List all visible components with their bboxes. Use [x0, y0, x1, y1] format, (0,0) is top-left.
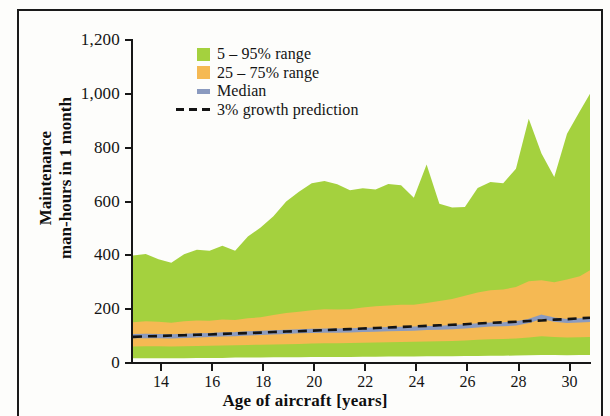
legend-label: Median: [217, 82, 266, 100]
x-tick-label-18: 18: [243, 373, 283, 391]
x-tick-label-22: 22: [345, 373, 385, 391]
y-tick-1000: [125, 93, 132, 95]
legend-key-median: [176, 89, 210, 94]
legend-swatch-icon: [197, 66, 210, 79]
y-tick-800: [125, 147, 132, 149]
x-tick-label-28: 28: [499, 373, 539, 391]
legend-swatch-icon: [197, 48, 210, 61]
legend-key-prediction: [176, 108, 210, 111]
y-tick-400: [125, 254, 132, 256]
x-tick-20: [313, 364, 315, 371]
x-tick-16: [211, 364, 213, 371]
x-tick-30: [569, 364, 571, 371]
y-axis-title-line-2: man-hours in 1 month: [56, 48, 76, 308]
x-tick-14: [160, 364, 162, 371]
legend-item-median: Median: [176, 82, 359, 101]
legend-key-range-25-75: [176, 66, 210, 79]
x-axis-line: [131, 362, 591, 364]
x-tick-24: [415, 364, 417, 371]
y-tick-1200: [125, 39, 132, 41]
x-tick-22: [364, 364, 366, 371]
x-tick-label-30: 30: [550, 373, 590, 391]
y-tick-600: [125, 201, 132, 203]
x-tick-26: [466, 364, 468, 371]
y-tick-label-1200: 1,200: [60, 31, 120, 48]
x-tick-18: [262, 364, 264, 371]
x-tick-label-20: 20: [294, 373, 334, 391]
legend-item-range-5-95: 5 – 95% range: [176, 45, 359, 64]
y-tick-200: [125, 308, 132, 310]
legend-label: 5 – 95% range: [217, 45, 311, 63]
y-axis-title: Maintenance man-hours in 1 month: [36, 48, 76, 308]
legend-label: 25 – 75% range: [217, 64, 319, 82]
x-tick-label-26: 26: [447, 373, 487, 391]
y-axis-title-line-1: Maintenance: [36, 48, 56, 308]
legend-label: 3% growth prediction: [217, 101, 359, 119]
chart-legend: 5 – 95% range25 – 75% rangeMedian3% grow…: [176, 45, 359, 119]
legend-dashed-line-icon: [176, 108, 210, 111]
legend-item-range-25-75: 25 – 75% range: [176, 64, 359, 83]
x-tick-label-16: 16: [192, 373, 232, 391]
legend-item-prediction: 3% growth prediction: [176, 101, 359, 120]
figure-container: 02004006008001,0001,200 1416182022242628…: [0, 0, 610, 416]
y-tick-0: [125, 362, 132, 364]
x-axis-title: Age of aircraft [years]: [0, 391, 610, 411]
legend-key-range-5-95: [176, 48, 210, 61]
x-tick-label-14: 14: [141, 373, 181, 391]
x-tick-label-24: 24: [396, 373, 436, 391]
legend-line-icon: [197, 89, 210, 94]
x-tick-28: [518, 364, 520, 371]
y-tick-label-0: 0: [60, 354, 120, 371]
